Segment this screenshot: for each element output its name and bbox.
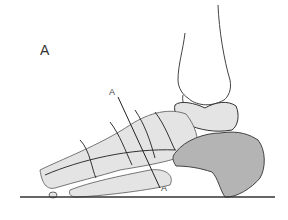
foot-skeleton-diagram <box>0 0 288 220</box>
leg-bones <box>178 5 231 105</box>
